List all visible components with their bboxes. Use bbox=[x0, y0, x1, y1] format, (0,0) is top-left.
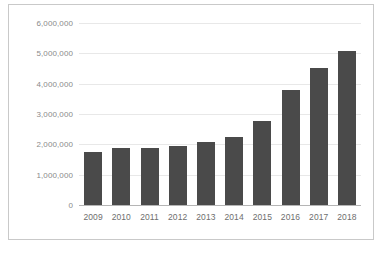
x-axis-tick-label: 2016 bbox=[281, 212, 300, 222]
bar-2016[interactable] bbox=[282, 90, 300, 205]
bar-slot-2010: 2010 bbox=[107, 23, 135, 205]
bar-2009[interactable] bbox=[84, 152, 102, 205]
x-axis-tick-label: 2009 bbox=[83, 212, 102, 222]
bar-slot-2017: 2017 bbox=[305, 23, 333, 205]
y-axis-tick-label: 0 bbox=[68, 201, 73, 210]
y-axis-tick-label: 1,000,000 bbox=[37, 170, 74, 179]
y-axis-tick-label: 2,000,000 bbox=[37, 140, 74, 149]
bar-2015[interactable] bbox=[253, 121, 271, 205]
x-axis-tick-label: 2017 bbox=[309, 212, 328, 222]
bar-2010[interactable] bbox=[112, 148, 130, 205]
y-axis-tick-label: 4,000,000 bbox=[37, 79, 74, 88]
y-axis-tick-label: 6,000,000 bbox=[37, 19, 74, 28]
bar-slot-2013: 2013 bbox=[192, 23, 220, 205]
bar-slot-2015: 2015 bbox=[248, 23, 276, 205]
bar-2014[interactable] bbox=[225, 137, 243, 205]
bar-slot-2014: 2014 bbox=[220, 23, 248, 205]
figure-container: 01,000,0002,000,0003,000,0004,000,0005,0… bbox=[0, 0, 383, 257]
y-axis-tick-label: 5,000,000 bbox=[37, 49, 74, 58]
x-axis-tick-label: 2013 bbox=[196, 212, 215, 222]
x-axis-tick-label: 2011 bbox=[140, 212, 159, 222]
bar-2017[interactable] bbox=[310, 68, 328, 205]
bar-2013[interactable] bbox=[197, 142, 215, 205]
plot-area: 01,000,0002,000,0003,000,0004,000,0005,0… bbox=[79, 23, 361, 205]
bar-series: 2009201020112012201320142015201620172018 bbox=[79, 23, 361, 205]
bar-slot-2011: 2011 bbox=[135, 23, 163, 205]
bar-slot-2016: 2016 bbox=[276, 23, 304, 205]
bar-slot-2018: 2018 bbox=[333, 23, 361, 205]
x-axis-tick-label: 2018 bbox=[337, 212, 356, 222]
x-axis-tick-label: 2014 bbox=[224, 212, 243, 222]
x-axis-tick-label: 2012 bbox=[168, 212, 187, 222]
bar-slot-2009: 2009 bbox=[79, 23, 107, 205]
bar-slot-2012: 2012 bbox=[164, 23, 192, 205]
bar-2012[interactable] bbox=[169, 146, 187, 205]
bar-2011[interactable] bbox=[141, 148, 159, 205]
bar-2018[interactable] bbox=[338, 51, 356, 205]
gridline-0: 0 bbox=[79, 205, 361, 206]
x-axis-tick-label: 2010 bbox=[112, 212, 131, 222]
x-axis-tick-label: 2015 bbox=[253, 212, 272, 222]
y-axis-tick-label: 3,000,000 bbox=[37, 110, 74, 119]
chart-card: 01,000,0002,000,0003,000,0004,000,0005,0… bbox=[8, 4, 374, 240]
